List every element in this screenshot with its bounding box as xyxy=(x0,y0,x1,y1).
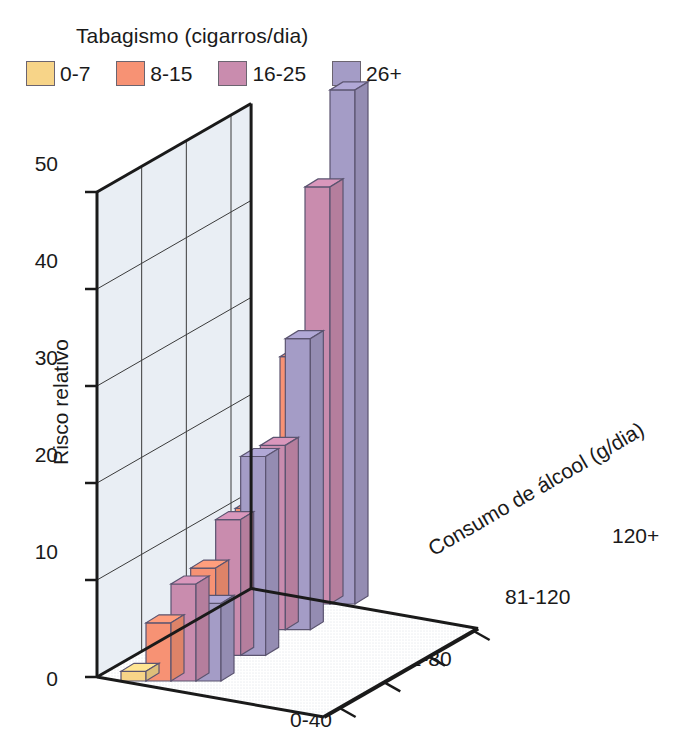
x-tick-mark xyxy=(429,657,445,666)
plot-area xyxy=(0,0,688,751)
x-tick-mark xyxy=(340,708,356,717)
bar-front-face xyxy=(121,671,146,681)
bar-side-face xyxy=(171,615,184,681)
bar-side-face xyxy=(330,179,343,604)
bar-side-face xyxy=(310,331,323,630)
bar-side-face xyxy=(196,576,209,681)
chart-container: Tabagismo (cigarros/dia) 0-7 8-15 16-25 … xyxy=(0,0,688,751)
bar-side-face xyxy=(285,437,298,629)
bar-side-face xyxy=(355,82,368,604)
x-tick-mark xyxy=(474,631,490,640)
bar-side-face xyxy=(266,448,279,655)
bar-side-face xyxy=(221,595,234,681)
x-tick-mark xyxy=(384,682,400,691)
